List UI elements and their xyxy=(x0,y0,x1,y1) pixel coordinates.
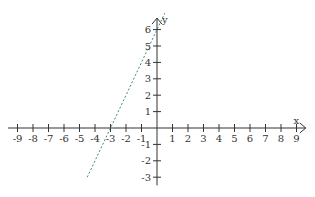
x-tick-label: 2 xyxy=(185,133,191,144)
x-tick-label: -6 xyxy=(59,133,69,144)
coordinate-graph: xy-9-8-7-6-5-4-3-2-1123456789654321-1-2-… xyxy=(0,0,315,197)
x-tick-label: -7 xyxy=(44,133,54,144)
y-tick-label: 1 xyxy=(145,106,151,117)
x-tick-label: -9 xyxy=(13,133,23,144)
y-tick-label: 3 xyxy=(145,73,151,84)
x-tick-label: 3 xyxy=(200,133,206,144)
x-tick-label: -2 xyxy=(121,133,131,144)
x-tick-label: 5 xyxy=(231,133,237,144)
y-tick-label: -1 xyxy=(141,139,151,150)
x-tick-label: 4 xyxy=(216,133,222,144)
x-tick-label: -8 xyxy=(28,133,38,144)
y-axis-label: y xyxy=(161,14,168,25)
y-tick-label: 4 xyxy=(145,57,151,68)
y-tick-label: 2 xyxy=(145,90,151,101)
x-tick-label: -5 xyxy=(75,133,85,144)
x-tick-label: -3 xyxy=(106,133,116,144)
x-tick-label: 6 xyxy=(247,133,253,144)
x-tick-label: 1 xyxy=(169,133,175,144)
y-tick-label: -3 xyxy=(141,172,151,183)
x-tick-label: 7 xyxy=(262,133,268,144)
x-tick-label: -4 xyxy=(90,133,100,144)
x-tick-label: 9 xyxy=(293,133,299,144)
graph-canvas: xy-9-8-7-6-5-4-3-2-1123456789654321-1-2-… xyxy=(0,0,315,197)
y-tick-label: 6 xyxy=(145,24,151,35)
x-tick-label: 8 xyxy=(278,133,284,144)
y-tick-label: -2 xyxy=(141,155,151,166)
